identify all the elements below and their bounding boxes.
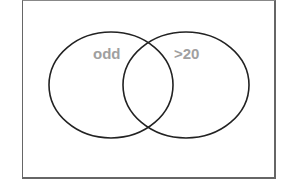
- set-odd-label: odd: [93, 45, 121, 62]
- set-gt20-label: >20: [174, 45, 199, 62]
- venn-diagram: [0, 0, 296, 189]
